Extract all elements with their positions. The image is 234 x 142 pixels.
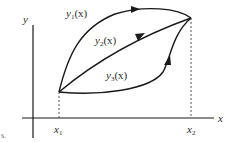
curve-y1-arrow-icon: [131, 6, 140, 13]
curve-y3: [59, 18, 191, 93]
x1-label: x1: [53, 123, 63, 137]
x2-label: x2: [186, 123, 196, 137]
curve-y3-arrow-icon: [164, 55, 171, 65]
curve-y3-label: y3(x): [105, 69, 128, 83]
y-axis-label: y: [22, 13, 28, 25]
stray-mark: s.: [1, 131, 6, 140]
curve-y1-label: y1(x): [65, 7, 88, 21]
path-comparison-diagram: y x y1(x) y2(x) y3(x) x1 x2 s.: [0, 0, 234, 142]
curve-y2-label: y2(x): [94, 34, 117, 48]
x-axis-label: x: [217, 112, 223, 124]
